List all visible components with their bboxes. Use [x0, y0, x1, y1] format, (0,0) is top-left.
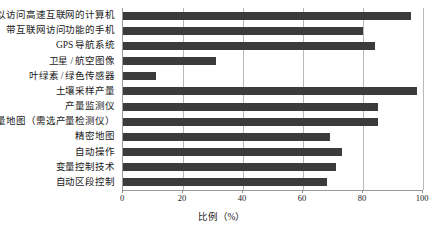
category-label: 自动操作: [75, 145, 115, 160]
bar: [123, 178, 327, 186]
category-label: 卫星 / 航空图像: [49, 54, 116, 69]
x-axis-title: 比例（%）: [0, 209, 443, 223]
bar: [123, 72, 156, 80]
category-label: GPS 导航系统: [56, 38, 115, 53]
category-label: 带互联网访问功能的手机: [6, 23, 115, 38]
bar: [123, 42, 375, 50]
bar: [123, 12, 411, 20]
category-label: 精密地图: [75, 129, 115, 144]
x-tick-label: 60: [298, 193, 307, 203]
bar: [123, 148, 342, 156]
bar: [123, 118, 378, 126]
bar: [123, 103, 378, 111]
category-axis-labels: 可以访问高速互联网的计算机带互联网访问功能的手机GPS 导航系统卫星 / 航空图…: [0, 8, 118, 190]
x-tick-label: 40: [238, 193, 247, 203]
gridline: [423, 8, 424, 190]
category-label: 产量监测仪: [65, 99, 115, 114]
gridline: [363, 8, 364, 190]
bar: [123, 27, 363, 35]
x-tick-label: 0: [120, 193, 124, 203]
category-label: 产量地图（需选产量检测仪）: [0, 114, 115, 129]
bar: [123, 163, 336, 171]
bar: [123, 87, 417, 95]
plot-area: [122, 8, 423, 191]
bar: [123, 57, 216, 65]
x-tick-label: 100: [416, 193, 429, 203]
category-label: 变量控制技术: [56, 160, 115, 175]
category-label: 叶绿素 / 绿色传感器: [29, 69, 115, 84]
bar-chart: 可以访问高速互联网的计算机带互联网访问功能的手机GPS 导航系统卫星 / 航空图…: [0, 0, 443, 241]
bar: [123, 133, 330, 141]
category-label: 自动区段控制: [56, 175, 115, 190]
category-label: 可以访问高速互联网的计算机: [0, 8, 115, 23]
category-label: 土壤采样产量: [56, 84, 115, 99]
x-tick-label: 80: [358, 193, 367, 203]
x-tick-label: 20: [178, 193, 187, 203]
